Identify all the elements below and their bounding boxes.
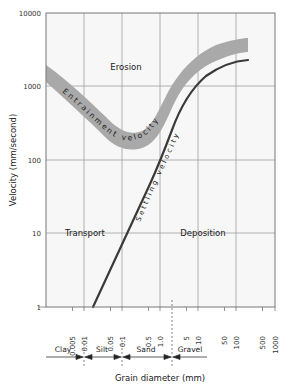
y-axis-ticks: 10000 1000 100 10 1 [19, 10, 41, 312]
grain-class-gravel: Gravel [178, 345, 203, 354]
y-tick-1: 1 [37, 304, 41, 312]
x-tick-500: 500 [259, 336, 267, 349]
deposition-label: Deposition [180, 228, 225, 238]
y-tick-100: 100 [28, 157, 41, 165]
x-tick-50: 50 [221, 336, 229, 345]
grain-class-sand: Sand [137, 345, 156, 354]
grain-class-silt: Silt [96, 345, 108, 354]
x-axis-title: Grain diameter (mm) [115, 373, 205, 383]
x-tick-1000: 1000 [272, 336, 280, 354]
y-tick-10000: 10000 [19, 10, 41, 18]
y-tick-10: 10 [32, 230, 41, 238]
x-tick-0.01: 0.01 [81, 336, 89, 352]
x-axis-tick-marks [38, 307, 275, 311]
x-tick-0.1: 0.1 [119, 336, 127, 347]
grain-class-clay: Clay [55, 345, 72, 354]
x-tick-100: 100 [233, 336, 241, 349]
y-axis-title: Velocity (mm/second) [8, 114, 18, 206]
x-tick-0.05: 0.05 [107, 336, 115, 352]
x-tick-1.0: 1.0 [157, 336, 165, 347]
y-tick-1000: 1000 [23, 83, 41, 91]
velocity-grain-size-chart: 10000 1000 100 10 1 Velocity (mm/second)… [0, 0, 287, 390]
x-tick-5: 5 [183, 336, 191, 340]
transport-label: Transport [64, 228, 106, 238]
x-tick-10: 10 [195, 336, 203, 345]
erosion-label: Erosion [110, 62, 141, 72]
